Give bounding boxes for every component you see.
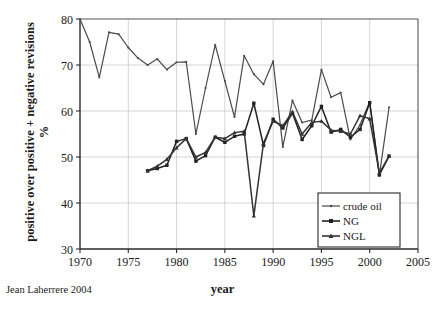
data-point: [349, 136, 352, 139]
y-tick-label: 70: [61, 59, 73, 73]
data-point: [320, 105, 323, 108]
x-tick-label: 1985: [213, 255, 237, 269]
data-point: [272, 60, 274, 62]
data-point: [204, 154, 207, 157]
y-tick-label: 40: [61, 197, 73, 211]
series-line-crude-oil: [80, 19, 389, 175]
data-point: [388, 106, 390, 108]
y-tick-label: 50: [61, 151, 73, 165]
data-point: [252, 214, 256, 218]
data-point: [300, 138, 303, 141]
data-point: [368, 101, 371, 104]
data-point: [223, 141, 226, 144]
data-point: [127, 47, 129, 49]
data-point: [282, 146, 284, 148]
x-tick-label: 1970: [68, 255, 92, 269]
legend-label: NG: [343, 215, 359, 227]
data-point: [359, 124, 361, 126]
data-point: [79, 18, 81, 20]
legend-marker: [329, 219, 333, 223]
data-point: [252, 101, 255, 104]
data-point: [301, 122, 303, 124]
data-point: [156, 58, 158, 60]
x-tick-label: 2005: [406, 255, 430, 269]
x-tick-label: 1990: [261, 255, 285, 269]
data-point: [340, 92, 342, 94]
data-point: [224, 80, 226, 82]
data-point: [165, 164, 168, 167]
legend-marker: [330, 205, 332, 207]
series-line-NG: [148, 103, 389, 175]
data-point: [253, 73, 255, 75]
data-point: [118, 33, 120, 35]
data-point: [214, 44, 216, 46]
data-point: [137, 57, 139, 59]
x-tick-label: 1995: [309, 255, 333, 269]
x-tick-label: 1980: [165, 255, 189, 269]
data-point: [185, 61, 187, 63]
data-point: [233, 135, 236, 138]
data-point: [358, 128, 361, 131]
data-point: [195, 133, 197, 135]
chart-plot: 3040506070801970197519801985199019952000…: [0, 0, 445, 313]
x-tick-label: 1975: [116, 255, 140, 269]
chart-container: positive over positive + negative revisi…: [0, 0, 445, 313]
data-point: [330, 96, 332, 98]
legend-label: crude oil: [343, 200, 382, 212]
data-point: [263, 83, 265, 85]
x-tick-label: 2000: [358, 255, 382, 269]
data-point: [234, 116, 236, 118]
legend-label: NGL: [343, 230, 366, 242]
data-point: [205, 87, 207, 89]
data-point: [321, 69, 323, 71]
data-point: [98, 77, 100, 79]
data-point: [175, 140, 178, 143]
data-point: [147, 64, 149, 66]
y-tick-label: 80: [61, 13, 73, 27]
data-point: [108, 31, 110, 33]
data-point: [243, 55, 245, 57]
y-tick-label: 60: [61, 105, 73, 119]
data-point: [89, 41, 91, 43]
data-point: [176, 61, 178, 63]
data-point: [292, 100, 294, 102]
data-point: [166, 69, 168, 71]
data-point: [194, 159, 197, 162]
